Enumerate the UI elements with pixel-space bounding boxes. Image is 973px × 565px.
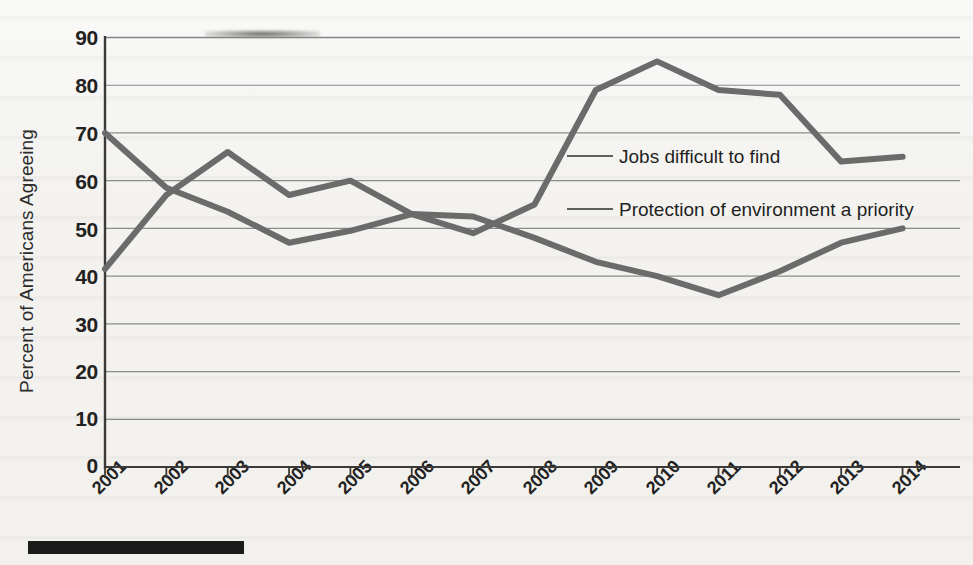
x-axis-ticks	[105, 467, 903, 478]
gridlines	[105, 38, 960, 420]
line-chart	[0, 0, 973, 565]
series-line-jobs	[105, 61, 903, 269]
bottom-black-bar	[28, 541, 244, 554]
